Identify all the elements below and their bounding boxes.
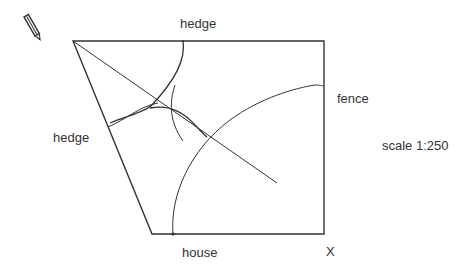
plot-boundary xyxy=(73,41,324,234)
fence-house-arc xyxy=(173,85,324,234)
x-mark-label: X xyxy=(326,245,335,258)
hedge-left-label: hedge xyxy=(53,131,89,144)
house-point xyxy=(171,232,174,235)
hedge-top-label: hedge xyxy=(180,17,216,30)
scale-label: scale 1:250 xyxy=(382,139,449,152)
house-label: house xyxy=(182,246,217,259)
arc-middle xyxy=(150,107,207,137)
diagonal-line xyxy=(73,41,277,183)
fence-label: fence xyxy=(337,92,369,105)
pencil-icon xyxy=(24,15,42,42)
